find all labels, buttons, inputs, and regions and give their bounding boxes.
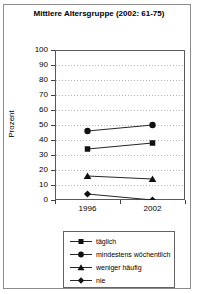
figure: { "figure": { "title": "Mittlere Altersg… [0, 0, 198, 294]
legend-item-mindestens-w-chentlich: mindestens wöchentlich [69, 248, 174, 261]
y-tick-label-70: 70 [26, 91, 48, 99]
y-tick-label-60: 60 [26, 106, 48, 114]
y-tick-label-100: 100 [26, 46, 48, 54]
y-tick-label-50: 50 [26, 121, 48, 129]
y-tick-40 [51, 140, 55, 141]
triangle-marker-icon [69, 263, 93, 272]
square-marker-icon [69, 237, 93, 246]
y-axis-title: Prozent [7, 94, 17, 154]
x-tick-label-2002: 2002 [133, 205, 173, 213]
legend-item-t-glich: täglich [69, 235, 174, 248]
series-line-weniger-h-ufig [88, 176, 153, 179]
y-tick-label-0: 0 [26, 196, 48, 204]
y-tick-100 [51, 50, 55, 51]
x-tick-0 [55, 200, 56, 204]
diamond-marker-icon [69, 276, 93, 285]
y-tick-label-20: 20 [26, 166, 48, 174]
chart-title: Mittlere Altersgruppe (2002: 61-75) [0, 9, 198, 18]
x-tick-1 [120, 200, 121, 204]
y-tick-50 [51, 125, 55, 126]
y-tick-label-90: 90 [26, 61, 48, 69]
y-tick-10 [51, 185, 55, 186]
data-point-t-glich-1996 [85, 146, 91, 152]
legend-label: täglich [96, 238, 116, 246]
data-point-mindestens-w-chentlich-2002 [149, 122, 155, 128]
y-tick-80 [51, 80, 55, 81]
data-point-mindestens-w-chentlich-1996 [84, 128, 90, 134]
y-tick-70 [51, 95, 55, 96]
data-point-nie-1996 [84, 190, 91, 197]
y-tick-label-10: 10 [26, 181, 48, 189]
x-tick-label-1996: 1996 [68, 205, 108, 213]
data-point-t-glich-2002 [150, 140, 156, 146]
legend-label: mindestens wöchentlich [96, 251, 170, 259]
y-tick-90 [51, 65, 55, 66]
y-tick-label-40: 40 [26, 136, 48, 144]
y-tick-60 [51, 110, 55, 111]
circle-marker-icon [69, 250, 93, 259]
legend-marker [78, 277, 85, 284]
legend-label: nie [96, 277, 105, 285]
legend-rows: täglichmindestens wöchentlichweniger häu… [69, 235, 174, 287]
legend-label: weniger häufig [96, 264, 142, 272]
y-tick-label-80: 80 [26, 76, 48, 84]
plot-area [55, 50, 185, 200]
series-line-t-glich [88, 143, 153, 149]
y-tick-30 [51, 155, 55, 156]
legend-item-nie: nie [69, 274, 174, 287]
legend-marker [78, 252, 84, 258]
y-tick-label-30: 30 [26, 151, 48, 159]
data-point-nie-2002 [149, 196, 156, 200]
x-tick-2 [185, 200, 186, 204]
legend-item-weniger-h-ufig: weniger häufig [69, 261, 174, 274]
legend: täglichmindestens wöchentlichweniger häu… [63, 231, 175, 288]
y-tick-20 [51, 170, 55, 171]
legend-marker [79, 239, 84, 244]
